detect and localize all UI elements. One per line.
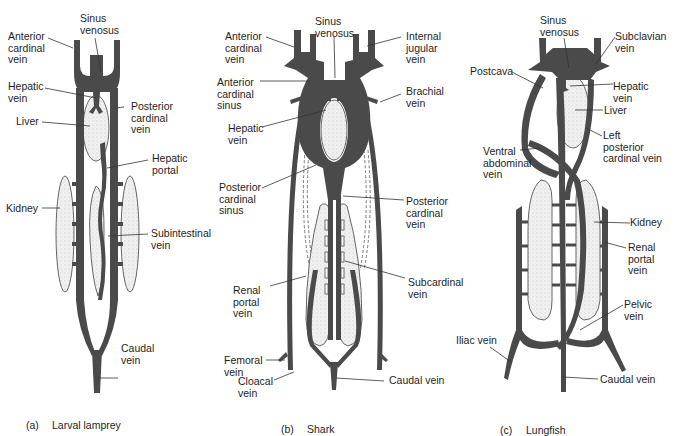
label-sinus-venosus: Sinus venosus: [315, 16, 354, 39]
caption-text: Shark: [307, 423, 334, 435]
label-kidney: Kidney: [630, 217, 662, 229]
label-subintestinal-vein: Subintestinal vein: [151, 228, 211, 251]
label-ventral-abdominal-vein: Ventral abdominal vein: [483, 146, 531, 181]
label-internal-jugular-vein: Internal jugular vein: [406, 31, 441, 66]
caption-a: (a)Larval lamprey: [26, 419, 121, 431]
caption-text: Lungfish: [526, 424, 566, 436]
kidney-right: [121, 176, 139, 292]
label-anterior-cardinal-sinus: Anterior cardinal sinus: [217, 77, 254, 112]
caption-c: (c)Lungfish: [500, 424, 566, 436]
label-posterior-cardinal-sinus: Posterior cardinal sinus: [219, 182, 261, 217]
label-brachial-vein: Brachial vein: [406, 86, 444, 109]
label-cloacal-vein: Cloacal vein: [238, 376, 273, 399]
caption-tag: (c): [500, 424, 526, 436]
label-kidney: Kidney: [6, 203, 38, 215]
label-liver: Liver: [604, 105, 627, 117]
caption-tag: (a): [26, 419, 52, 431]
label-hepatic-portal: Hepatic portal: [152, 153, 188, 176]
caption-tag: (b): [281, 423, 307, 435]
label-sinus-venosus: Sinus venosus: [540, 15, 579, 38]
caption-text: Larval lamprey: [52, 419, 121, 431]
label-caudal-vein: Caudal vein: [600, 374, 655, 386]
panel-a-lamprey-drawing: [42, 38, 148, 393]
label-postcava: Postcava: [470, 66, 513, 78]
label-posterior-cardinal-vein: Posterior cardinal vein: [131, 101, 173, 136]
panel-b-shark-drawing: [260, 30, 405, 390]
label-left-posterior-cardinal-vein: Left posterior cardinal vein: [603, 130, 662, 165]
caption-b: (b)Shark: [281, 423, 334, 435]
label-sinus-venosus: Sinus venosus: [80, 13, 119, 36]
label-caudal-vein: Caudal vein: [121, 343, 154, 366]
label-iliac-vein: Iliac vein: [456, 335, 497, 347]
label-anterior-cardinal-vein: Anterior cardinal vein: [8, 31, 45, 66]
label-hepatic-vein: Hepatic vein: [613, 81, 649, 104]
label-renal-portal-vein: Renal portal vein: [233, 285, 260, 320]
label-renal-portal-vein: Renal portal vein: [628, 242, 655, 277]
kidney-left: [528, 180, 552, 320]
label-subcardinal-vein: Subcardinal vein: [408, 277, 463, 300]
label-caudal-vein: Caudal vein: [389, 375, 444, 387]
label-liver: Liver: [16, 116, 39, 128]
label-posterior-cardinal-vein: Posterior cardinal vein: [406, 196, 448, 231]
label-subclavian-vein: Subclavian vein: [615, 31, 666, 54]
label-hepatic-vein: Hepatic vein: [8, 81, 44, 104]
kidney-left: [56, 176, 74, 292]
label-anterior-cardinal-vein: Anterior cardinal vein: [225, 31, 262, 66]
label-hepatic-vein: Hepatic vein: [228, 123, 264, 146]
label-pelvic-vein: Pelvic vein: [624, 299, 652, 322]
panel-c-lungfish-drawing: [490, 37, 630, 392]
